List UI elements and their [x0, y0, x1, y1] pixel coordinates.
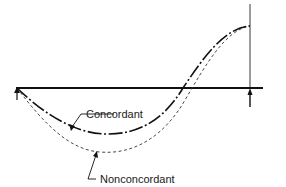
nonconcordant-curve — [17, 26, 250, 152]
concordant-label: Concordant — [86, 108, 143, 120]
nonconcordant-label: Nonconcordant — [100, 173, 175, 185]
right-support-arrow-icon — [248, 88, 253, 107]
beam-diagram: Concordant Nonconcordant — [0, 0, 286, 187]
nonconcordant-leader — [88, 151, 98, 179]
